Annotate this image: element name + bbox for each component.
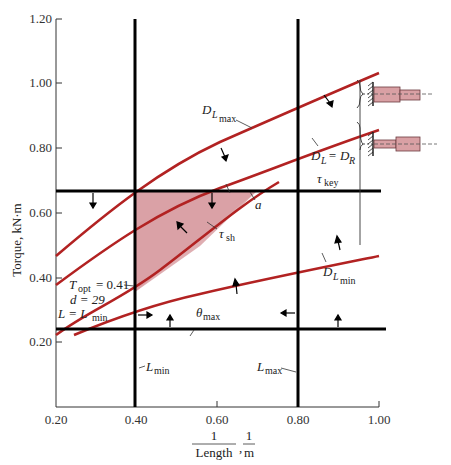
svg-text:Length: Length [196, 445, 233, 460]
svg-text:L: L [145, 359, 153, 374]
svg-text:τ: τ [317, 171, 323, 186]
svg-text:D: D [322, 264, 333, 279]
svg-text:min: min [340, 275, 356, 286]
svg-text:L = L: L = L [57, 306, 88, 321]
svg-text:min: min [154, 365, 170, 376]
svg-text:,: , [239, 440, 242, 455]
x-tick: 1.00 [368, 412, 391, 427]
svg-text:max: max [219, 113, 236, 124]
label-dlmin: D L min [322, 264, 356, 286]
svg-text:θ: θ [196, 305, 203, 320]
svg-text:max: max [265, 365, 282, 376]
label-t-opt: T opt = 0.41 d = 29 L = L min [57, 277, 129, 323]
svg-text:L: L [211, 109, 218, 120]
svg-text:R: R [348, 155, 355, 166]
label-lmin: L min [145, 359, 170, 376]
x-tick: 0.80 [287, 412, 310, 427]
label-tau-key: τ key [317, 171, 338, 188]
svg-text:L: L [332, 271, 339, 282]
shaft-icon-middle [368, 132, 437, 156]
svg-text:= 0.41: = 0.41 [96, 277, 129, 292]
x-tick: 0.20 [45, 412, 68, 427]
label-dlmax: D L max [201, 102, 236, 124]
y-tick: 0.40 [29, 270, 52, 285]
svg-text:= D: = D [328, 148, 350, 163]
label-tau-sh: τ sh [219, 226, 235, 243]
x-axis-label: 1 Length , 1 m [192, 428, 255, 460]
label-dl-eq-dr: D L = D R [310, 148, 355, 166]
x-tick: 0.60 [206, 412, 229, 427]
y-tick: 0.80 [29, 140, 52, 155]
svg-text:key: key [324, 177, 338, 188]
y-axis-label: Torque, kN·m [9, 203, 24, 276]
design-chart: 1.20 1.00 0.80 0.60 0.40 0.20 0.20 0.40 … [0, 0, 451, 465]
svg-text:d = 29: d = 29 [70, 292, 105, 307]
y-tick-labels: 1.20 1.00 0.80 0.60 0.40 0.20 [29, 11, 52, 349]
svg-text:min: min [92, 312, 108, 323]
label-theta-max: θ max [196, 305, 220, 322]
y-tick: 1.20 [29, 11, 52, 26]
shaft-icon-top [368, 82, 432, 106]
svg-text:1: 1 [211, 428, 218, 443]
svg-text:m: m [244, 445, 254, 460]
y-tick: 1.00 [29, 75, 52, 90]
svg-text:τ: τ [219, 226, 225, 241]
svg-text:T: T [69, 277, 77, 292]
x-tick: 0.40 [125, 412, 148, 427]
label-a: a [255, 197, 262, 212]
svg-text:max: max [203, 311, 220, 322]
svg-text:L: L [256, 359, 264, 374]
svg-text:D: D [201, 102, 212, 117]
svg-text:1: 1 [246, 428, 253, 443]
svg-text:D: D [310, 148, 321, 163]
y-tick: 0.20 [29, 334, 52, 349]
svg-text:sh: sh [226, 232, 235, 243]
y-tick: 0.60 [29, 205, 52, 220]
x-tick-labels: 0.20 0.40 0.60 0.80 1.00 [45, 412, 391, 427]
svg-text:L: L [320, 155, 327, 166]
label-lmax: L max [256, 359, 282, 376]
